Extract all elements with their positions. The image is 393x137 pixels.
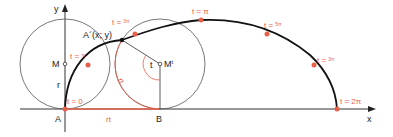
label-t0: t = 0	[67, 97, 83, 106]
y-axis	[62, 4, 68, 132]
label-t-pi: t = π	[192, 7, 209, 16]
radius-to-a-prime	[122, 40, 160, 64]
label-m: M	[52, 59, 60, 69]
label-angle: t	[150, 60, 153, 70]
point-t-2pi	[335, 107, 340, 112]
y-axis-label: y	[54, 4, 59, 14]
point-t0	[63, 107, 68, 112]
center-m	[63, 62, 67, 66]
point-t-pi-2	[86, 63, 91, 68]
label-t-3pi-2: t = 3π	[317, 56, 335, 65]
cycloid-diagram: y x A B M Mt A´(x; y) r rt rt t t = 0 t …	[0, 0, 393, 137]
label-mt: Mt	[164, 59, 174, 69]
x-axis-label: x	[367, 114, 372, 124]
point-a-prime	[120, 38, 124, 42]
label-t-3pi-4: t = 3π	[112, 18, 130, 27]
label-a: A	[55, 114, 61, 124]
point-t-pi	[199, 18, 204, 23]
label-base-rt: rt	[106, 115, 112, 124]
point-t-3pi-4	[133, 32, 138, 37]
arc-rt	[115, 40, 160, 109]
label-t-2pi: t = 2π	[340, 97, 362, 106]
point-t-3pi-2	[312, 63, 317, 68]
center-mt	[158, 62, 162, 66]
label-a-prime: A´(x; y)	[83, 30, 112, 40]
label-b: B	[156, 114, 162, 124]
label-t-5pi-4: t = 5π	[264, 21, 282, 30]
point-t-5pi-4	[265, 32, 270, 37]
label-radius: r	[57, 80, 60, 90]
